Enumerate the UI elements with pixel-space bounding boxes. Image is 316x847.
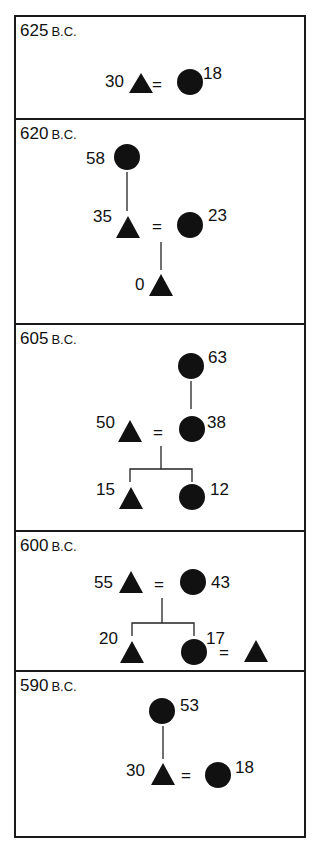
female-circle-icon — [181, 639, 207, 665]
female-circle-icon — [114, 144, 140, 170]
age-label: 53 — [180, 696, 199, 715]
marriage-equals: = — [219, 643, 229, 662]
age-label: 55 — [94, 573, 113, 592]
sibling-bar — [130, 469, 192, 482]
sibling-bar — [132, 623, 194, 636]
male-triangle-icon — [149, 274, 173, 296]
kinship-chart: 55 = 43 20 17 = — [16, 532, 304, 672]
female-circle-icon — [149, 698, 175, 724]
kinship-chart: 58 35 = 23 0 — [16, 120, 304, 325]
kinship-diagram-frame: 625B.C. 30 = 18 620B.C. 58 35 = 23 0 605… — [14, 15, 306, 838]
panel-590: 590B.C. 53 30 = 18 — [16, 672, 304, 836]
age-label: 0 — [135, 275, 144, 294]
marriage-equals: = — [154, 575, 164, 594]
male-triangle-icon — [118, 420, 142, 442]
panel-625: 625B.C. 30 = 18 — [16, 17, 304, 120]
female-circle-icon — [178, 353, 204, 379]
age-label: 35 — [93, 207, 112, 226]
female-circle-icon — [179, 416, 205, 442]
kinship-chart: 63 50 = 38 15 12 — [16, 325, 304, 532]
marriage-equals: = — [152, 217, 162, 236]
age-label: 43 — [211, 573, 230, 592]
male-triangle-icon — [119, 571, 143, 593]
age-label: 58 — [86, 149, 105, 168]
marriage-equals: = — [153, 423, 163, 442]
female-circle-icon — [180, 569, 206, 595]
age-label: 18 — [235, 758, 254, 777]
age-label: 20 — [99, 629, 118, 648]
male-triangle-icon — [119, 487, 143, 509]
age-label: 50 — [96, 413, 115, 432]
age-label: 12 — [210, 480, 229, 499]
marriage-equals: = — [181, 766, 191, 785]
marriage-equals: = — [152, 75, 162, 94]
age-label: 30 — [105, 72, 124, 91]
male-triangle-icon — [151, 763, 175, 785]
age-label: 38 — [207, 413, 226, 432]
panel-605: 605B.C. 63 50 = 38 15 12 — [16, 325, 304, 532]
age-label: 23 — [208, 206, 227, 225]
kinship-chart: 30 = 18 — [16, 17, 304, 120]
age-label: 30 — [126, 761, 145, 780]
male-triangle-icon — [244, 640, 268, 662]
panel-600: 600B.C. 55 = 43 20 17 = — [16, 532, 304, 672]
kinship-chart: 53 30 = 18 — [16, 672, 304, 836]
age-label: 63 — [208, 348, 227, 367]
female-circle-icon — [179, 484, 205, 510]
male-triangle-icon — [116, 216, 140, 238]
male-triangle-icon — [120, 641, 144, 663]
age-label: 15 — [96, 480, 115, 499]
female-circle-icon — [177, 212, 203, 238]
panel-620: 620B.C. 58 35 = 23 0 — [16, 120, 304, 325]
male-triangle-icon — [129, 73, 153, 93]
female-circle-icon — [177, 69, 203, 95]
female-circle-icon — [205, 762, 231, 788]
age-label: 18 — [203, 64, 222, 83]
